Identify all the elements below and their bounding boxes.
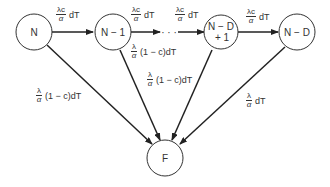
node-n-minus-d-plus-1-label-line2: + 1	[215, 32, 230, 43]
edge-label-tail: (1 − c)dT	[45, 91, 81, 101]
denominator: α	[59, 15, 64, 23]
edge-nd-to-f	[180, 47, 285, 144]
edge-label-n1-to-f: λα (1 − c)dT	[131, 43, 176, 60]
node-f-label: F	[162, 153, 168, 164]
denominator: α	[249, 17, 254, 25]
edge-label-nd-to-f: λα dT	[246, 92, 266, 109]
edge-label-nd1-to-f: λα (1 − c)dT	[147, 71, 192, 88]
edge-label-n-to-n1: λcα dT	[56, 6, 80, 23]
denominator: α	[247, 101, 252, 109]
edge-label-tail: dT	[255, 96, 266, 106]
denominator: α	[178, 15, 183, 23]
edge-label-tail: (1 − c)dT	[156, 75, 192, 85]
denominator: α	[148, 80, 153, 88]
denominator: α	[132, 52, 137, 60]
edge-label-tail: dT	[69, 10, 80, 20]
edge-label-tail: dT	[259, 12, 270, 22]
edge-nd1-to-f	[172, 50, 212, 140]
edge-label-n1-to-dots: λcα dT	[131, 6, 155, 23]
denominator: α	[134, 15, 139, 23]
edge-label-tail: (1 − c)dT	[140, 47, 176, 57]
ellipsis: · · ·	[161, 27, 177, 38]
edge-label-nd1-to-nd: λcα dT	[246, 8, 270, 25]
node-n-minus-1-label: N − 1	[101, 27, 126, 38]
edge-label-dots-to-nd1: λcα dT	[175, 6, 199, 23]
node-n-label: N	[30, 27, 37, 38]
node-n-minus-d-plus-1-label-line1: N − D	[208, 21, 234, 32]
denominator: α	[37, 96, 42, 104]
edge-n1-to-f	[120, 50, 160, 140]
node-n-minus-d-label: N − D	[284, 27, 310, 38]
edge-label-tail: dT	[188, 10, 199, 20]
edge-label-n-to-f: λα (1 − c)dT	[36, 87, 81, 104]
edge-label-tail: dT	[144, 10, 155, 20]
